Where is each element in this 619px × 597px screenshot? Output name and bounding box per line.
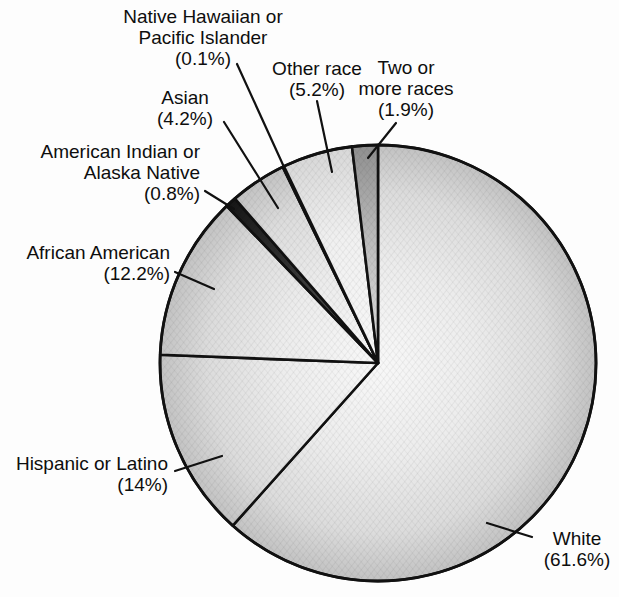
label-line: Alaska Native [0, 162, 200, 183]
label-percent: (1.9%) [350, 99, 462, 120]
label-percent: (12.2%) [0, 263, 170, 284]
halftone-texture [161, 146, 595, 580]
label-hispanic-or-latino: Hispanic or Latino (14%) [0, 453, 168, 495]
label-line: Asian [135, 87, 235, 108]
label-african-american: African American (12.2%) [0, 242, 170, 284]
label-asian: Asian (4.2%) [135, 87, 235, 129]
leader-line-american-indian [205, 191, 234, 209]
label-line: American Indian or [0, 141, 200, 162]
label-white: White (61.6%) [535, 528, 619, 570]
label-percent: (4.2%) [135, 108, 235, 129]
label-percent: (14%) [0, 474, 168, 495]
label-line: African American [0, 242, 170, 263]
label-line: Two or [350, 57, 462, 78]
label-line: Pacific Islander [103, 27, 303, 48]
label-american-indian: American Indian or Alaska Native (0.8%) [0, 141, 200, 204]
label-two-or-more-races: Two or more races (1.9%) [350, 57, 462, 120]
label-line: White [535, 528, 619, 549]
label-line: Native Hawaiian or [103, 6, 303, 27]
pie-chart-figure: Native Hawaiian or Pacific Islander (0.1… [0, 0, 619, 597]
label-line: more races [350, 78, 462, 99]
label-percent: (0.8%) [0, 183, 200, 204]
label-line: Hispanic or Latino [0, 453, 168, 474]
label-percent: (61.6%) [535, 549, 619, 570]
